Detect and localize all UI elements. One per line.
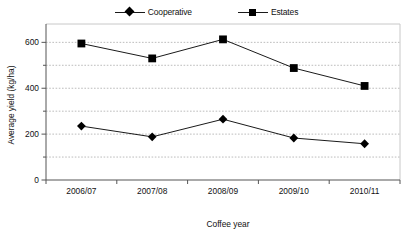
y-axis-tick-label: 0 <box>34 175 39 185</box>
y-axis-tick-label: 400 <box>25 83 39 93</box>
data-point-estates <box>290 64 298 72</box>
data-point-cooperative <box>219 115 228 124</box>
y-axis-tick-labels: 0200400600 <box>25 37 39 185</box>
data-point-cooperative <box>77 122 86 131</box>
data-point-cooperative <box>360 139 369 148</box>
x-axis-ticks <box>46 180 400 184</box>
y-axis-ticks <box>42 42 47 180</box>
y-axis-tick-label: 600 <box>25 37 39 47</box>
x-axis-tick-label: 2006/07 <box>66 186 97 196</box>
chart-container: Cooperative Estates 0200400600 2006/0720… <box>0 0 413 232</box>
y-axis-tick-label: 200 <box>25 129 39 139</box>
data-point-estates <box>361 82 369 90</box>
x-axis-tick-label: 2008/09 <box>208 186 239 196</box>
x-axis-tick-labels: 2006/072007/082008/092009/102010/11 <box>66 186 380 196</box>
data-point-estates <box>78 40 86 48</box>
data-point-cooperative <box>289 134 298 143</box>
chart-plot: 0200400600 2006/072007/082008/092009/102… <box>0 0 413 232</box>
data-series <box>77 35 369 148</box>
y-axis-title: Average yield (kg/ha) <box>6 65 16 144</box>
data-point-estates <box>148 55 156 63</box>
series-line-estates <box>81 39 364 86</box>
x-axis-title: Coffee year <box>206 219 249 229</box>
x-axis-tick-label: 2009/10 <box>279 186 310 196</box>
x-axis-tick-label: 2010/11 <box>350 186 380 196</box>
data-point-estates <box>219 35 227 43</box>
gridlines <box>46 42 400 157</box>
x-axis-tick-label: 2007/08 <box>137 186 168 196</box>
